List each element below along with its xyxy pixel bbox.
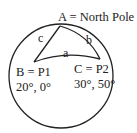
vertex-b-label: B = P1 [16, 65, 51, 79]
vertex-c-coords: 30°, 50° [74, 77, 115, 91]
spherical-triangle-diagram: A = North Pole c b a B = P1 20°, 0° C = … [0, 0, 137, 133]
vertex-a-label: A = North Pole [58, 10, 135, 24]
vertex-c-label: C = P2 [74, 62, 109, 76]
vertex-b-coords: 20°, 0° [16, 80, 51, 94]
side-a-label: a [63, 46, 69, 60]
side-b-label: b [86, 33, 92, 47]
side-c-label: c [38, 31, 43, 45]
